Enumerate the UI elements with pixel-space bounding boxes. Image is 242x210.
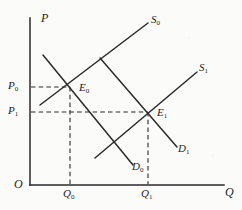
x-axis-label: Q (225, 186, 234, 198)
quantity-1-tick-label: Q1 (141, 188, 152, 199)
demand-curve-d1 (100, 58, 177, 147)
origin-label: O (14, 178, 23, 190)
equilibrium-e1-label: E1 (157, 107, 167, 118)
diagram-canvas (0, 0, 242, 210)
demand-curve-d1-label: D1 (178, 143, 189, 154)
price-0-tick-label: P0 (8, 80, 18, 91)
equilibrium-e0-label: E0 (79, 82, 89, 93)
quantity-0-tick-label: Q0 (63, 188, 74, 199)
y-axis-label: P (41, 12, 48, 24)
demand-curve-d0 (43, 55, 133, 165)
demand-curve-d0-label: D0 (132, 161, 143, 172)
price-1-tick-label: P1 (8, 105, 18, 116)
supply-demand-diagram: P Q O P0 P1 Q0 Q1 S0 S1 D0 D1 E0 E1 (0, 0, 242, 210)
supply-curve-s0-label: S0 (151, 14, 160, 25)
supply-curve-s0 (40, 23, 148, 105)
supply-curve-s1-label: S1 (199, 62, 208, 73)
